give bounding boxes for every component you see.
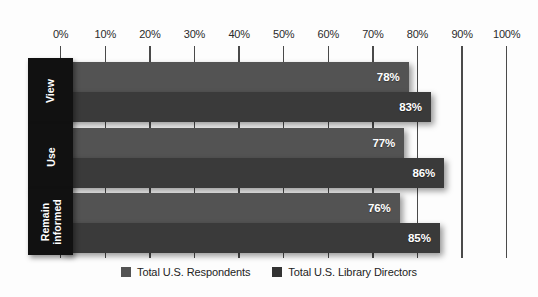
legend-item[interactable]: Total U.S. Library Directors: [272, 266, 417, 278]
bar-chart: 0%10%20%30%40%50%60%70%80%90%100%78%83%V…: [0, 0, 538, 297]
group-label-text: Remaininformed: [39, 199, 63, 245]
plot-area: 0%10%20%30%40%50%60%70%80%90%100%78%83%V…: [0, 0, 538, 297]
bar: 78%: [61, 62, 409, 92]
bar-value-label: 77%: [372, 137, 404, 149]
group-label-line: View: [44, 79, 56, 103]
group-label-text: Use: [45, 147, 57, 167]
chart-legend: Total U.S. RespondentsTotal U.S. Library…: [0, 266, 538, 278]
x-axis-tick-label: 50%: [260, 28, 308, 40]
bar: 85%: [61, 223, 440, 253]
x-axis-tick-label: 10%: [81, 28, 129, 40]
x-axis-tick-label: 90%: [438, 28, 486, 40]
bar-value-label: 83%: [399, 101, 431, 113]
x-axis-tick-label: 0%: [37, 28, 85, 40]
group-label-box: View: [28, 58, 73, 124]
legend-label: Total U.S. Respondents: [137, 266, 250, 278]
x-axis-tick-label: 100%: [483, 28, 531, 40]
group-label-box: Remaininformed: [28, 189, 73, 255]
x-axis-tick-label: 60%: [304, 28, 352, 40]
x-axis-tick-label: 80%: [394, 28, 442, 40]
legend-swatch-icon: [121, 267, 131, 277]
bar-value-label: 86%: [413, 167, 445, 179]
bar: 86%: [61, 158, 445, 188]
bar-value-label: 85%: [408, 232, 440, 244]
bar-value-label: 78%: [377, 71, 409, 83]
x-axis-tick-label: 20%: [126, 28, 174, 40]
legend-item[interactable]: Total U.S. Respondents: [121, 266, 250, 278]
x-axis-tick-label: 30%: [171, 28, 219, 40]
bar: 76%: [61, 193, 400, 223]
gridline: [461, 46, 462, 258]
group-label-text: View: [44, 79, 56, 103]
group-label-line: informed: [51, 199, 63, 245]
x-axis-tick-label: 70%: [349, 28, 397, 40]
group-label-box: Use: [28, 124, 73, 190]
group-label-line: Remain: [39, 199, 51, 245]
gridline: [506, 46, 507, 258]
bar: 83%: [61, 92, 431, 122]
bar: 77%: [61, 128, 404, 158]
group-label-line: Use: [45, 147, 57, 167]
legend-swatch-icon: [272, 267, 282, 277]
bar-value-label: 76%: [368, 202, 400, 214]
x-axis-tick-label: 40%: [215, 28, 263, 40]
legend-label: Total U.S. Library Directors: [288, 266, 417, 278]
